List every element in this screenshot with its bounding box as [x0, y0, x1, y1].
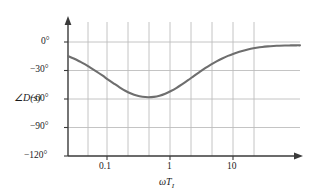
grid-lines-horizontal — [68, 42, 300, 128]
x-axis — [68, 153, 303, 160]
y-tick-label-minus60: −60° — [30, 93, 49, 103]
x-axis-title-subscript: I — [172, 182, 174, 190]
y-tick-label-minus30: −30° — [30, 64, 49, 74]
x-axis-title: ωTI — [159, 176, 174, 190]
y-tick-label-minus120: −120° — [24, 150, 47, 160]
y-tick-label-minus90: −90° — [30, 121, 49, 131]
x-tick-label-1: 1 — [167, 161, 172, 171]
phase-response-curve — [68, 45, 300, 97]
phase-plot-figure: ∠D(s) 0° −30° −60° −90° −120° 0.1 1 10 ω… — [0, 0, 311, 196]
x-tick-label-10: 10 — [227, 161, 237, 171]
y-tick-label-0: 0° — [41, 36, 50, 46]
x-tick-label-0point1: 0.1 — [99, 161, 111, 171]
x-axis-title-base: ωT — [159, 176, 172, 187]
y-axis — [65, 16, 72, 156]
